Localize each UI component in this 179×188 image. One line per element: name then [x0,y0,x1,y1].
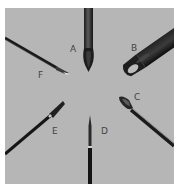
needles-illustration [5,8,174,184]
label-e: E [52,127,58,136]
needle-photo: A B C D E F [5,8,174,184]
label-c: C [134,93,140,102]
label-b: B [131,44,137,53]
label-d: D [101,127,108,136]
label-a: A [70,45,76,54]
needle-d [88,115,92,184]
label-f: F [38,71,43,80]
needle-c [119,96,174,146]
needle-b [120,20,174,79]
needle-a [83,8,94,72]
